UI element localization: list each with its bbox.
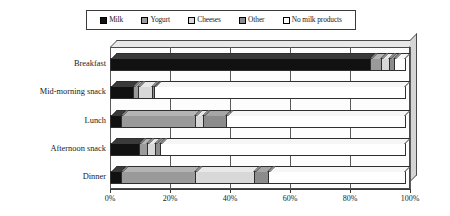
bar-segment[interactable] bbox=[268, 171, 406, 184]
x-axis-tick-label: 40% bbox=[223, 194, 238, 203]
bar-stack bbox=[110, 171, 410, 184]
category-axis-labels: BreakfastMid-morning snackLunchAfternoon… bbox=[0, 47, 106, 189]
legend-item[interactable]: Milk bbox=[100, 16, 123, 24]
x-axis-tick bbox=[230, 189, 231, 193]
x-axis: 0%20%40%60%80%100% bbox=[110, 189, 418, 199]
category-label: Afternoon snack bbox=[2, 144, 106, 154]
bar-segment-top-face bbox=[269, 166, 411, 172]
bar-segment[interactable] bbox=[138, 86, 153, 99]
bar-segment[interactable] bbox=[160, 143, 406, 156]
legend-item[interactable]: Yogurt bbox=[141, 16, 170, 24]
stacked-bar-chart: MilkYogurtCheesesOtherNo milk products B… bbox=[0, 0, 450, 216]
bar-segment[interactable] bbox=[226, 115, 406, 128]
category-label: Dinner bbox=[2, 172, 106, 182]
category-label: Mid-morning snack bbox=[2, 87, 106, 97]
legend-swatch-icon bbox=[100, 17, 107, 24]
legend-item-label: Milk bbox=[109, 16, 123, 24]
bar-segment-top-face bbox=[155, 81, 411, 87]
bar-row bbox=[110, 115, 410, 128]
bar-stack bbox=[110, 143, 410, 156]
legend-item-label: Cheeses bbox=[197, 16, 221, 24]
bar-segment[interactable] bbox=[110, 58, 371, 71]
category-label: Lunch bbox=[2, 116, 106, 126]
x-axis-tick-label: 0% bbox=[105, 194, 116, 203]
legend-item[interactable]: Cheeses bbox=[188, 16, 221, 24]
bar-stack bbox=[110, 58, 410, 71]
legend-swatch-icon bbox=[283, 17, 290, 24]
bar-stack bbox=[110, 115, 410, 128]
x-axis-line bbox=[110, 189, 410, 190]
plot-right-face bbox=[410, 33, 417, 182]
legend-item[interactable]: Other bbox=[239, 16, 264, 24]
legend-item-label: Yogurt bbox=[150, 16, 170, 24]
legend-swatch-icon bbox=[141, 17, 148, 24]
bar-segment[interactable] bbox=[254, 171, 269, 184]
bar-segment-top-face bbox=[227, 110, 411, 116]
bar-segment[interactable] bbox=[195, 171, 255, 184]
legend-swatch-icon bbox=[239, 17, 246, 24]
category-label: Breakfast bbox=[2, 59, 106, 69]
bar-row bbox=[110, 86, 410, 99]
bar-segment-top-face bbox=[111, 53, 376, 59]
bar-segment-top-face bbox=[196, 166, 260, 172]
x-axis-tick bbox=[110, 189, 111, 193]
bar-segment[interactable] bbox=[110, 143, 140, 156]
x-axis-tick bbox=[170, 189, 171, 193]
bar-segment[interactable] bbox=[154, 86, 406, 99]
chart-legend: MilkYogurtCheesesOtherNo milk products bbox=[86, 10, 356, 30]
legend-item-label: No milk products bbox=[292, 16, 342, 24]
bar-segment[interactable] bbox=[121, 115, 196, 128]
bar-segment[interactable] bbox=[121, 171, 196, 184]
bar-segment-top-face bbox=[161, 138, 411, 144]
plot-top-face bbox=[110, 40, 417, 47]
x-axis-tick-label: 20% bbox=[163, 194, 178, 203]
bar-segment[interactable] bbox=[110, 86, 134, 99]
bar-stack bbox=[110, 86, 410, 99]
gridline bbox=[410, 47, 411, 189]
x-axis-tick bbox=[290, 189, 291, 193]
legend-item[interactable]: No milk products bbox=[283, 16, 342, 24]
x-axis-tick-label: 100% bbox=[401, 194, 420, 203]
bar-segment-top-face bbox=[122, 166, 201, 172]
legend-swatch-icon bbox=[188, 17, 195, 24]
bar-segment-top-face bbox=[122, 110, 201, 116]
bar-segment[interactable] bbox=[394, 58, 406, 71]
bar-row bbox=[110, 58, 410, 71]
x-axis-tick bbox=[350, 189, 351, 193]
bar-segment[interactable] bbox=[203, 115, 227, 128]
plot-area bbox=[110, 47, 410, 189]
bar-row bbox=[110, 143, 410, 156]
x-axis-tick bbox=[410, 189, 411, 193]
x-axis-tick-label: 60% bbox=[283, 194, 298, 203]
x-axis-tick-label: 80% bbox=[343, 194, 358, 203]
legend-item-label: Other bbox=[248, 16, 264, 24]
bar-row bbox=[110, 171, 410, 184]
